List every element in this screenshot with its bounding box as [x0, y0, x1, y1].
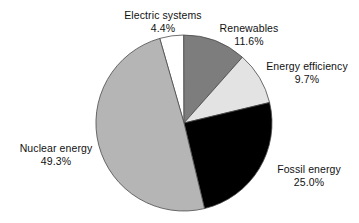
pie-chart-figure: Electric systems 4.4% Renewables 11.6% E…: [0, 0, 359, 223]
pie-slices-group: [96, 35, 272, 211]
slice-label-electric-systems-name: Electric systems: [124, 9, 201, 21]
slice-label-renewables-percent: 11.6%: [206, 35, 292, 48]
slice-label-nuclear-energy: Nuclear energy 49.3%: [8, 142, 104, 167]
slice-label-fossil-energy-name: Fossil energy: [277, 163, 341, 175]
slice-label-nuclear-energy-percent: 49.3%: [8, 155, 104, 168]
slice-label-renewables-name: Renewables: [220, 22, 279, 34]
slice-label-electric-systems: Electric systems 4.4%: [114, 9, 212, 34]
slice-label-fossil-energy-percent: 25.0%: [266, 176, 352, 189]
slice-label-nuclear-energy-name: Nuclear energy: [20, 142, 93, 154]
slice-label-electric-systems-percent: 4.4%: [114, 22, 212, 35]
slice-label-energy-efficiency: Energy efficiency 9.7%: [257, 60, 357, 85]
slice-label-renewables: Renewables 11.6%: [206, 22, 292, 47]
slice-label-energy-efficiency-name: Energy efficiency: [266, 60, 347, 72]
slice-label-energy-efficiency-percent: 9.7%: [257, 73, 357, 86]
slice-label-fossil-energy: Fossil energy 25.0%: [266, 163, 352, 188]
